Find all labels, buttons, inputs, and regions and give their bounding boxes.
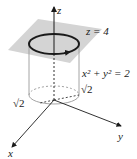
y-axis-label: y: [117, 130, 123, 142]
radius-label-x: √2: [13, 97, 25, 109]
x-axis-label: x: [7, 147, 13, 159]
cylinder-equation-label: x² + y² = 2: [81, 67, 130, 79]
radius-label-y: √2: [81, 83, 93, 95]
cylinder-plane-diagram: z z = 4 x² + y² = 2 √2 √2 y x: [0, 0, 137, 159]
y-axis: [54, 100, 121, 126]
plane-label: z = 4: [85, 25, 109, 37]
radius-line-y: [54, 95, 79, 100]
z-axis-label: z: [56, 4, 62, 16]
